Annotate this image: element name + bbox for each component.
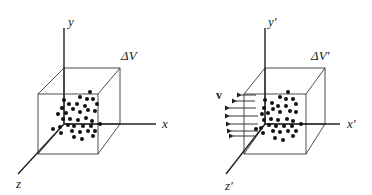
y-prime-axis-label: y′ (266, 14, 277, 29)
figure: y x z ΔV y′ x′ z′ ΔV′ v (0, 0, 372, 195)
diagram-canvas: y x z ΔV y′ x′ z′ ΔV′ v (0, 0, 372, 195)
z-prime-axis (226, 124, 265, 174)
left-particles (51, 90, 102, 141)
volume-prime-label: ΔV′ (310, 48, 330, 63)
cube-back-face (265, 68, 325, 124)
right-particles (254, 90, 303, 142)
velocity-label: v (216, 88, 222, 102)
z-prime-axis-label: z′ (224, 178, 233, 193)
volume-label: ΔV (120, 48, 139, 63)
x-prime-axis-label: x′ (346, 116, 356, 131)
z-axis-label: z (15, 176, 21, 191)
velocity-arrows (229, 95, 258, 136)
z-axis (18, 124, 64, 174)
cube-back-face (64, 68, 120, 124)
x-axis-label: x (161, 116, 168, 131)
y-axis-label: y (66, 14, 74, 29)
